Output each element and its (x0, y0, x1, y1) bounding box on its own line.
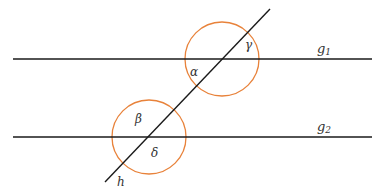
label-h: h (117, 175, 125, 189)
angle-alpha: α (190, 65, 198, 79)
line-h (105, 9, 270, 182)
angle-delta: δ (151, 146, 158, 160)
label-g1: g1 (317, 41, 331, 57)
angle-beta: β (134, 112, 142, 126)
diagram-canvas: g1 g2 h α γ β δ (0, 0, 382, 194)
angle-diagram: g1 g2 h α γ β δ (0, 0, 382, 194)
angle-gamma: γ (245, 38, 253, 52)
label-g2: g2 (317, 119, 331, 135)
